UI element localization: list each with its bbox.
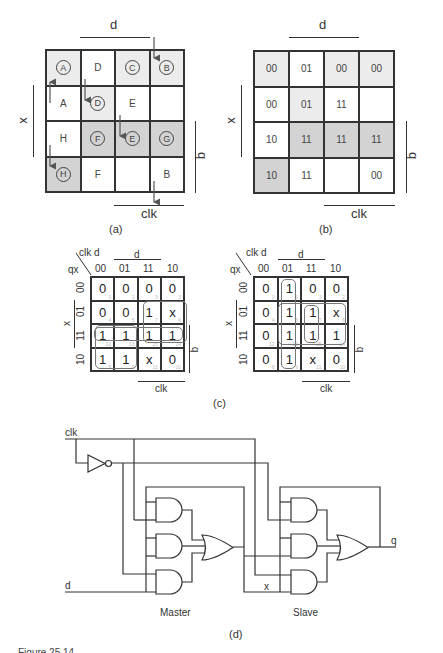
d-input-label: d	[65, 580, 71, 591]
q-output-label: q	[391, 535, 397, 546]
circuit-wires	[0, 0, 443, 653]
x-signal-label: x	[264, 581, 269, 592]
slave-label: Slave	[293, 607, 318, 618]
figure-caption: Figure 25.14 ...	[18, 648, 438, 653]
master-label: Master	[160, 607, 191, 618]
caption-d: (d)	[229, 628, 242, 640]
clk-input-label: clk	[65, 427, 77, 438]
